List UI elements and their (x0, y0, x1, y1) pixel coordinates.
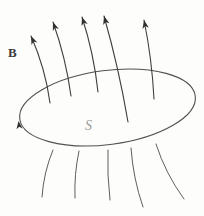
surface-label: S (85, 118, 92, 133)
field-line-arrowhead-icon (101, 15, 110, 25)
field-line-below (156, 144, 184, 199)
field-line-above (31, 36, 50, 103)
field-line-above (144, 20, 154, 99)
field-line-below (42, 150, 53, 197)
field-line-arrowhead-icon (141, 19, 149, 29)
field-line-arrowhead-icon (50, 21, 59, 31)
magnetic-flux-diagram: B S (0, 0, 204, 216)
field-line-above (82, 17, 98, 92)
field-line-below (131, 148, 143, 207)
field-line-arrowhead-icon (28, 35, 37, 45)
figure-canvas: B S (0, 0, 204, 216)
field-lines-below-group (42, 144, 184, 207)
surface-boundary-ellipse (15, 59, 200, 155)
field-line-arrowhead-icon (79, 16, 88, 26)
field-line-below (108, 150, 110, 200)
magnetic-field-label: B (8, 45, 17, 60)
field-line-above (53, 22, 71, 96)
field-line-below (75, 151, 79, 198)
